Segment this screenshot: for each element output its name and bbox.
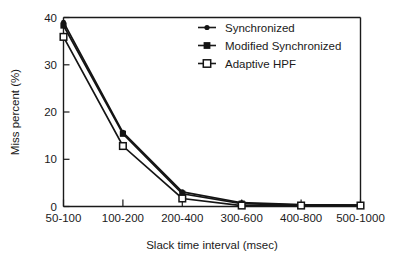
x-tick-label-3: 200-400 <box>161 212 203 224</box>
data-point-open-square <box>238 202 245 209</box>
x-tick-label-4: 300-600 <box>221 212 263 224</box>
data-point-open-square <box>179 195 186 202</box>
data-point-open-square <box>60 34 67 41</box>
series-line <box>64 26 361 206</box>
legend-label-3: Adaptive HPF <box>225 58 296 70</box>
filled-circle-icon <box>204 25 209 30</box>
legend-item-adaptive-hpf[interactable]: Adaptive HPF <box>198 58 296 70</box>
legend-label-1: Synchronized <box>225 22 295 34</box>
chart-figure: 0 10 20 30 40 50-100 100-200 200-400 300… <box>0 0 397 262</box>
open-square-icon <box>203 60 210 67</box>
chart-legend: Synchronized Modified Synchronized Adapt… <box>198 22 341 70</box>
legend-item-modified-synchronized[interactable]: Modified Synchronized <box>198 40 341 52</box>
legend-label-2: Modified Synchronized <box>225 40 341 52</box>
data-point-open-square <box>357 202 364 209</box>
data-point-open-square <box>120 143 127 150</box>
y-tick-label-30: 30 <box>44 59 57 71</box>
x-tick-label-2: 100-200 <box>102 212 144 224</box>
legend-item-synchronized[interactable]: Synchronized <box>198 22 295 34</box>
y-tick-label-40: 40 <box>44 12 57 24</box>
line-chart-canvas: 0 10 20 30 40 50-100 100-200 200-400 300… <box>0 0 397 262</box>
x-axis-title: Slack time interval (msec) <box>146 239 278 251</box>
y-axis-title: Miss percent (%) <box>9 69 21 155</box>
series-line <box>64 37 361 206</box>
x-tick-label-5: 400-800 <box>280 212 322 224</box>
y-tick-label-20: 20 <box>44 106 57 118</box>
data-point-filled-square <box>60 22 66 28</box>
data-point-filled-square <box>120 131 126 137</box>
data-point-open-square <box>298 202 305 209</box>
y-tick-label-10: 10 <box>44 153 57 165</box>
filled-square-icon <box>204 42 211 49</box>
y-tick-label-0: 0 <box>51 201 57 213</box>
x-tick-label-6: 500-1000 <box>336 212 385 224</box>
series-adaptive-hpf <box>60 34 364 209</box>
y-tick-labels: 0 10 20 30 40 <box>44 12 57 213</box>
x-tick-labels: 50-100 100-200 200-400 300-600 400-800 5… <box>46 212 385 224</box>
x-tick-label-1: 50-100 <box>46 212 82 224</box>
